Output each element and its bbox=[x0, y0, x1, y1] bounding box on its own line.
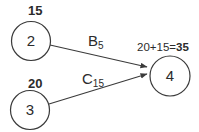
node-3-value: 3 bbox=[26, 101, 34, 118]
edge-c-name: C bbox=[82, 70, 93, 87]
node-4-value: 4 bbox=[166, 67, 174, 84]
node-2-value: 2 bbox=[27, 32, 35, 49]
node-4-cost-total: 35 bbox=[176, 41, 189, 53]
edge-c-subscript: 15 bbox=[93, 78, 105, 89]
diagram-canvas: 2 3 4 15 20 20+15=35 B5 C15 bbox=[0, 0, 199, 132]
edge-b-label: B5 bbox=[88, 32, 104, 51]
edge-b-name: B bbox=[88, 32, 98, 49]
node-4-cost-expression: 20+15= bbox=[137, 41, 176, 53]
edge-b-subscript: 5 bbox=[98, 40, 104, 51]
node-3-cost-label: 20 bbox=[28, 76, 42, 91]
node-4-cost-label: 20+15=35 bbox=[137, 41, 189, 53]
node-2-cost-label: 15 bbox=[28, 3, 42, 18]
edge-c-label: C15 bbox=[82, 70, 104, 89]
graph-diagram: 2 3 4 15 20 20+15=35 B5 C15 bbox=[0, 0, 199, 132]
